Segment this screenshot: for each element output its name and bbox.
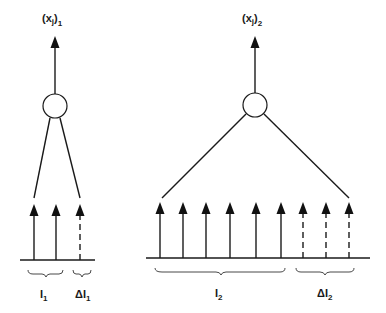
unit-2: (xj)2 I2 ΔI2 [146,12,370,302]
input-arrow-solid [156,202,165,258]
input-arrowhead [345,202,354,214]
connection-line-right-2 [264,114,349,198]
connection-line-left-2 [162,114,246,198]
input-arrowhead [76,204,85,216]
input-arrowhead [52,204,61,216]
output-arrowhead-2 [251,36,260,48]
input-arrow-solid [277,202,286,258]
input-arrow-solid [52,204,61,260]
input-arrow-dashed [322,202,331,258]
input-arrowhead [226,202,235,214]
input-arrow-solid [179,202,188,258]
input-arrow-dashed [299,202,308,258]
group-label-I1: I1 [40,288,48,303]
group-label-dI1: ΔI1 [75,288,91,303]
input-arrowhead [202,202,211,214]
input-arrowhead [277,202,286,214]
input-arrowhead [30,204,39,216]
input-arrowhead [179,202,188,214]
group-label-I2: I2 [215,287,223,302]
input-arrowhead [156,202,165,214]
brace-group-I2 [155,268,285,275]
input-arrowhead [252,202,261,214]
brace-group-I1 [28,270,63,277]
brace-group-dI1 [73,270,91,277]
connection-line-left-1 [34,118,50,198]
input-arrowhead [299,202,308,214]
brace-group-dI2 [296,268,354,275]
input-arrow-solid [202,202,211,258]
unit-1: (xj)1 I1 ΔI1 [20,12,95,303]
input-arrow-dashed [76,204,85,260]
input-arrow-solid [252,202,261,258]
output-arrowhead-1 [51,36,60,48]
diagram-canvas: (xj)1 I1 ΔI1 (xj)2 I2 ΔI2 [0,0,386,313]
input-arrow-dashed [345,202,354,258]
input-arrowhead [322,202,331,214]
output-label-2: (xj)2 [242,12,263,28]
neuron-node-2 [243,93,267,117]
input-arrow-solid [30,204,39,260]
input-arrow-solid [226,202,235,258]
neuron-node-1 [43,94,67,118]
output-label-1: (xj)1 [42,12,63,28]
group-label-dI2: ΔI2 [317,287,333,302]
connection-line-right-1 [60,118,80,198]
